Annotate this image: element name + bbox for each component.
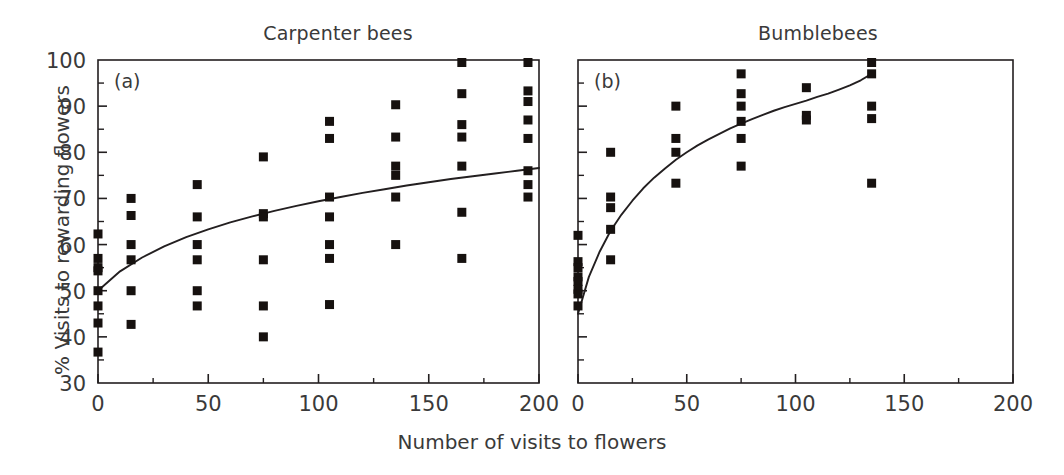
- data-point-marker: [94, 286, 103, 295]
- data-point-marker: [523, 193, 532, 202]
- x-axis-title: Number of visits to flowers: [0, 430, 1064, 454]
- data-point-marker: [606, 225, 615, 234]
- data-point-marker: [523, 86, 532, 95]
- panel-letter-label: (b): [594, 70, 621, 92]
- panel-a: 05010015020030405060708090100(a): [46, 49, 559, 416]
- data-point-marker: [457, 254, 466, 263]
- fit-line-curve: [578, 74, 872, 314]
- data-point-marker: [523, 97, 532, 106]
- data-point-marker: [193, 255, 202, 264]
- data-point-marker: [457, 89, 466, 98]
- data-point-marker: [574, 301, 583, 310]
- data-point-marker: [867, 69, 876, 78]
- data-point-marker: [737, 89, 746, 98]
- data-point-marker: [259, 212, 268, 221]
- data-point-marker: [391, 162, 400, 171]
- x-tick-label: 100: [775, 392, 815, 416]
- data-point-marker: [523, 134, 532, 143]
- data-point-marker: [193, 286, 202, 295]
- data-point-marker: [325, 300, 334, 309]
- x-tick-label: 0: [571, 392, 584, 416]
- data-point-marker: [523, 58, 532, 67]
- plot-frame: [98, 60, 539, 383]
- data-point-marker: [259, 255, 268, 264]
- panel-b-title: Bumblebees: [728, 22, 908, 44]
- data-point-marker: [193, 240, 202, 249]
- data-point-marker: [457, 208, 466, 217]
- data-point-marker: [523, 166, 532, 175]
- data-point-marker: [391, 133, 400, 142]
- data-point-marker: [127, 255, 136, 264]
- panel-a-title: Carpenter bees: [248, 22, 428, 44]
- x-tick-label: 100: [298, 392, 338, 416]
- x-tick-label: 150: [409, 392, 449, 416]
- data-point-marker: [325, 134, 334, 143]
- data-point-marker: [127, 286, 136, 295]
- data-point-marker: [737, 102, 746, 111]
- panel-letter-label: (a): [114, 70, 140, 92]
- data-point-marker: [802, 115, 811, 124]
- data-point-marker: [737, 117, 746, 126]
- data-point-marker: [259, 301, 268, 310]
- data-point-marker: [127, 194, 136, 203]
- panel-b: 050100150200(b): [571, 58, 1033, 416]
- data-point-marker: [325, 193, 334, 202]
- x-tick-label: 50: [195, 392, 222, 416]
- data-point-marker: [325, 254, 334, 263]
- data-point-marker: [325, 117, 334, 126]
- data-point-marker: [259, 332, 268, 341]
- data-point-marker: [193, 301, 202, 310]
- data-point-marker: [391, 240, 400, 249]
- data-point-marker: [325, 212, 334, 221]
- data-point-marker: [523, 115, 532, 124]
- data-point-marker: [574, 231, 583, 240]
- data-point-marker: [606, 193, 615, 202]
- x-tick-label: 0: [91, 392, 104, 416]
- data-point-marker: [867, 114, 876, 123]
- data-point-marker: [867, 102, 876, 111]
- data-point-marker: [867, 179, 876, 188]
- data-point-marker: [127, 320, 136, 329]
- fit-line-curve: [98, 168, 539, 291]
- data-point-marker: [737, 134, 746, 143]
- data-point-marker: [127, 211, 136, 220]
- data-point-marker: [94, 254, 103, 263]
- data-point-marker: [574, 263, 583, 272]
- data-point-marker: [94, 301, 103, 310]
- data-point-marker: [606, 148, 615, 157]
- data-point-marker: [391, 100, 400, 109]
- data-point-marker: [391, 193, 400, 202]
- data-point-marker: [94, 266, 103, 275]
- data-point-marker: [391, 171, 400, 180]
- data-point-marker: [457, 162, 466, 171]
- figure-container: Carpenter bees Bumblebees 05010015020030…: [0, 0, 1064, 475]
- data-point-marker: [457, 120, 466, 129]
- x-tick-label: 200: [519, 392, 559, 416]
- x-tick-label: 200: [993, 392, 1033, 416]
- data-point-marker: [94, 319, 103, 328]
- scatter-plot-svg: 05010015020030405060708090100(a) 0501001…: [0, 0, 1064, 475]
- data-point-marker: [457, 58, 466, 67]
- data-point-marker: [671, 148, 680, 157]
- data-point-marker: [737, 69, 746, 78]
- data-point-marker: [523, 180, 532, 189]
- data-point-marker: [193, 180, 202, 189]
- data-point-marker: [574, 277, 583, 286]
- data-point-marker: [606, 203, 615, 212]
- data-point-marker: [737, 162, 746, 171]
- plot-frame: [578, 60, 1013, 383]
- data-point-marker: [671, 102, 680, 111]
- data-point-marker: [94, 348, 103, 357]
- data-point-marker: [606, 255, 615, 264]
- data-point-marker: [259, 152, 268, 161]
- data-point-marker: [325, 240, 334, 249]
- data-point-marker: [671, 134, 680, 143]
- y-axis-title: % Visits to rewarding flowers: [50, 50, 74, 410]
- x-tick-label: 150: [884, 392, 924, 416]
- data-point-marker: [867, 58, 876, 67]
- data-point-marker: [574, 289, 583, 298]
- data-point-marker: [193, 212, 202, 221]
- data-point-marker: [671, 179, 680, 188]
- x-tick-label: 50: [673, 392, 700, 416]
- data-point-marker: [127, 240, 136, 249]
